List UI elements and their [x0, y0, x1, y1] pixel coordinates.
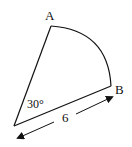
radius-label: 6: [62, 110, 69, 125]
dimension-arrow-lower: [18, 122, 54, 138]
point-label-b: B: [115, 82, 124, 97]
radius-line-oa: [14, 26, 51, 126]
dimension-arrow-upper: [76, 97, 112, 114]
angle-label: 30°: [27, 97, 44, 111]
sector-diagram: A B 30° 6: [0, 0, 132, 147]
sector-arc: [51, 26, 111, 86]
point-label-a: A: [45, 8, 55, 23]
